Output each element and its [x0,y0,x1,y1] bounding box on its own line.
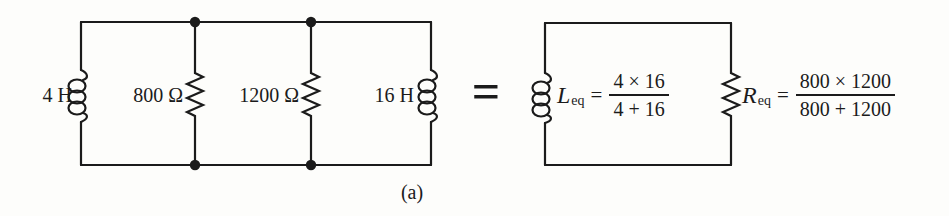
req-formula: Req = 800 × 1200 800 + 1200 [742,62,895,128]
req-equals: = [777,83,789,108]
leq-variable: L [557,82,570,109]
caption-a: (a) [388,181,436,203]
label-inductor-4h: 4 H [22,84,72,106]
leq-subscript: eq [571,93,584,109]
inductor-16h-symbol [419,70,437,122]
inductor-leq-symbol [533,73,551,123]
resistor-1200-symbol [303,22,319,165]
req-denominator: 800 + 1200 [796,96,895,121]
req-variable: R [742,82,757,109]
equals-sign: = [458,63,514,119]
junction-dot [190,17,200,27]
leq-equals: = [591,83,603,108]
label-resistor-800: 800 Ω [103,84,183,106]
junction-dot [306,17,316,27]
junction-dot [190,160,200,170]
leq-denominator: 4 + 16 [609,96,668,121]
req-numerator: 800 × 1200 [796,69,895,96]
label-inductor-16h: 16 H [354,84,414,106]
leq-numerator: 4 × 16 [609,69,668,96]
resistor-800-symbol [187,22,203,165]
resistor-req-symbol [723,23,739,165]
leq-fraction: 4 × 16 4 + 16 [609,69,668,121]
junction-dot [306,160,316,170]
leq-formula: Leq = 4 × 16 4 + 16 [557,62,669,128]
req-fraction: 800 × 1200 800 + 1200 [796,69,895,121]
circuit-figure: 4 H 800 Ω 1200 Ω 16 H (a) = Leq = 4 × 16… [0,0,949,216]
req-subscript: eq [758,93,771,109]
label-resistor-1200: 1200 Ω [209,84,299,106]
